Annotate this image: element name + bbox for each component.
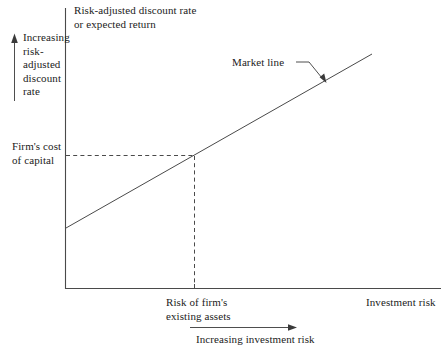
figure-canvas: Risk-adjusted discount rate or expected … [0, 0, 447, 357]
x-axis-title: Investment risk [366, 296, 436, 310]
firm-cost-of-capital-label: Firm's cost of capital [12, 140, 72, 167]
market-line-callout-shaft [296, 62, 322, 78]
x-axis-direction-label: Increasing investment risk [196, 333, 315, 347]
market-line [66, 54, 372, 228]
market-line-label: Market line [232, 56, 284, 70]
y-direction-arrow-head-icon [11, 34, 18, 44]
y-axis-title: Risk-adjusted discount rate or expected … [74, 4, 196, 31]
x-direction-arrow-head-icon [288, 324, 297, 330]
risk-of-existing-assets-label: Risk of firm's existing assets [166, 296, 276, 323]
y-axis-direction-label: Increasing risk- adjusted discount rate [23, 31, 79, 99]
